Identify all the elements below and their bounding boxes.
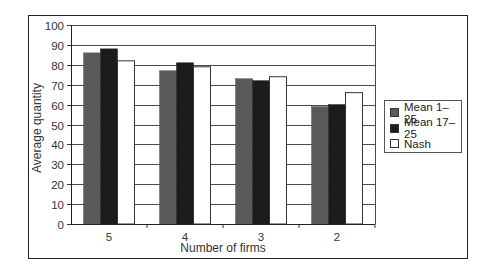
- y-axis-title: Average quantity: [30, 83, 44, 173]
- y-tick-label: 20: [51, 179, 64, 191]
- bar: [270, 77, 287, 224]
- bar: [118, 61, 135, 224]
- legend: Mean 1–25 Mean 17–25 Nash: [384, 100, 462, 153]
- y-tick-label: 10: [51, 199, 64, 211]
- legend-swatch-mean-17-25: [390, 124, 399, 133]
- y-tick-label: 70: [51, 80, 64, 92]
- bar: [253, 81, 270, 224]
- legend-swatch-mean-1-25: [390, 108, 399, 117]
- bar: [194, 67, 211, 224]
- x-axis-title: Number of firms: [180, 241, 265, 255]
- legend-label: Nash: [404, 138, 431, 150]
- y-tick-label: 0: [58, 219, 64, 231]
- legend-item-mean-17-25: Mean 17–25: [390, 121, 461, 137]
- y-tick-label: 50: [51, 120, 64, 132]
- bar: [312, 107, 329, 224]
- bar: [84, 53, 101, 224]
- bar: [177, 63, 194, 224]
- y-tick-label: 100: [45, 20, 64, 32]
- y-tick-label: 30: [51, 159, 64, 171]
- x-tick-label: 5: [106, 231, 112, 243]
- bar: [236, 79, 253, 224]
- bar: [329, 105, 346, 224]
- y-tick-label: 80: [51, 60, 64, 72]
- bar: [346, 93, 363, 224]
- y-tick-label: 60: [51, 100, 64, 112]
- x-tick-label: 2: [334, 231, 340, 243]
- y-tick-label: 90: [51, 40, 64, 52]
- legend-label: Mean 17–25: [404, 116, 461, 140]
- bar: [101, 49, 118, 224]
- y-tick-label: 40: [51, 139, 64, 151]
- bar: [160, 71, 177, 224]
- legend-swatch-nash: [390, 139, 399, 148]
